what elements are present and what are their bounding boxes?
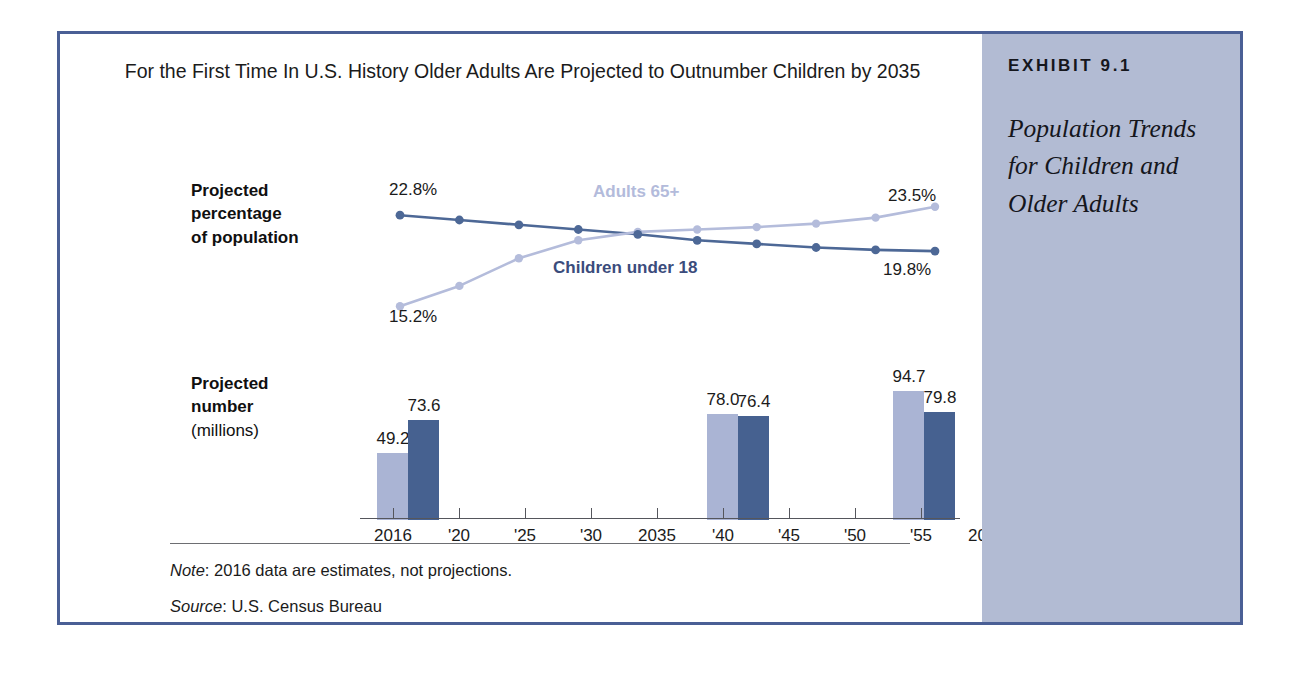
number-axis-label-line1: Projected — [191, 372, 268, 395]
footnote-source-text: : U.S. Census Bureau — [222, 597, 382, 615]
callout-adults-end: 23.5% — [888, 186, 936, 206]
data-point — [812, 243, 821, 252]
footnote-source: Source: U.S. Census Bureau — [170, 597, 382, 616]
exhibit-frame: For the First Time In U.S. History Older… — [57, 31, 1243, 625]
footnote-note: Note: 2016 data are estimates, not proje… — [170, 561, 512, 580]
exhibit-number: EXHIBIT 9.1 — [1008, 56, 1220, 76]
bar-chart-baseline — [360, 518, 960, 519]
data-point — [693, 236, 702, 245]
data-point — [515, 254, 523, 262]
x-axis-tick-label: '55 — [910, 526, 932, 546]
x-axis-tick — [393, 508, 394, 518]
bar — [924, 412, 955, 521]
callout-children-end: 19.8% — [883, 260, 931, 280]
percentage-axis-label: Projected percentage of population — [191, 179, 299, 249]
x-axis-tick — [525, 508, 526, 518]
x-axis-tick — [921, 508, 922, 518]
chart-area: For the First Time In U.S. History Older… — [60, 34, 985, 622]
series-label-children-under-18: Children under 18 — [553, 258, 698, 278]
exhibit-caption-panel: EXHIBIT 9.1 Population Trends for Childr… — [982, 34, 1240, 622]
footnote-divider — [170, 543, 910, 544]
bar — [738, 416, 769, 520]
footnote-note-prefix: Note — [170, 561, 205, 579]
data-point — [693, 225, 701, 233]
data-point — [396, 211, 405, 220]
x-axis-tick — [591, 508, 592, 518]
bar — [893, 391, 924, 520]
percentage-axis-label-line1: Projected — [191, 179, 299, 202]
bar — [707, 414, 738, 520]
data-point — [752, 240, 761, 249]
chart-title: For the First Time In U.S. History Older… — [60, 58, 985, 86]
x-axis-tick — [723, 508, 724, 518]
bar-value-label: 76.4 — [714, 392, 794, 412]
bar — [408, 420, 439, 520]
x-axis-tick — [657, 508, 658, 518]
data-point — [574, 236, 582, 244]
percentage-axis-label-line2: percentage — [191, 202, 299, 225]
exhibit-caption-title: Population Trends for Children and Older… — [1008, 110, 1220, 222]
data-point — [753, 223, 761, 231]
footnote-note-text: : 2016 data are estimates, not projectio… — [205, 561, 512, 579]
footnote-source-prefix: Source — [170, 597, 222, 615]
number-axis-label-line3: (millions) — [191, 419, 268, 442]
callout-adults-start: 15.2% — [389, 307, 437, 327]
x-axis-tick — [855, 508, 856, 518]
bar-chart: 49.273.678.076.494.779.8 — [360, 370, 980, 520]
callout-children-start: 22.8% — [389, 180, 437, 200]
bar-value-label: 73.6 — [384, 396, 464, 416]
number-axis-label-line2: number — [191, 395, 268, 418]
data-point — [574, 225, 583, 234]
x-axis-tick — [789, 508, 790, 518]
series-label-adults-65-plus: Adults 65+ — [593, 182, 679, 202]
data-point — [931, 247, 940, 256]
bar-value-label: 94.7 — [869, 367, 949, 387]
data-point — [633, 230, 642, 239]
data-point — [455, 282, 463, 290]
data-point — [812, 219, 820, 227]
data-point — [871, 246, 880, 255]
data-point — [515, 220, 524, 229]
number-axis-label: Projected number (millions) — [191, 372, 268, 442]
percentage-axis-label-line3: of population — [191, 226, 299, 249]
data-point — [871, 213, 879, 221]
x-axis-tick — [459, 508, 460, 518]
bar-value-label: 79.8 — [900, 388, 980, 408]
data-point — [455, 216, 464, 225]
